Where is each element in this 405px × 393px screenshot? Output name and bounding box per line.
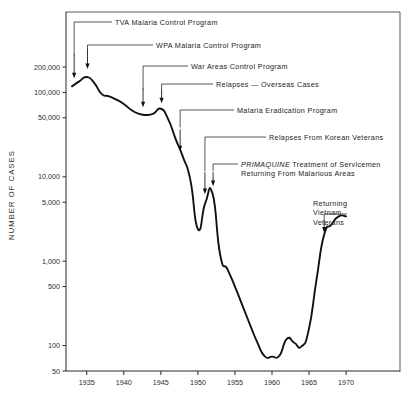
y-tick-label-100: 100 (48, 341, 60, 350)
arrow-head (85, 63, 89, 69)
y-tick-label-500: 500 (48, 282, 60, 291)
annotation-leader (74, 22, 112, 55)
malaria-cases-figure: 200,000100,00050,00010,0005,0001,0005001… (0, 0, 405, 393)
arrow-head (141, 102, 145, 108)
annotation-leader (213, 164, 238, 171)
y-tick-label-50000: 50,000 (38, 113, 60, 122)
y-tick-label-200000: 200,000 (34, 63, 60, 72)
annotation-vietnam-line1: Returning (313, 199, 347, 208)
annotation-leader (87, 45, 153, 50)
y-tick-label-1000: 1,000 (42, 257, 60, 266)
x-tick-label-1940: 1940 (116, 378, 132, 387)
y-tick-label-50: 50 (52, 367, 60, 376)
malaria-cases-curve (72, 77, 346, 358)
arrow-head (211, 181, 215, 187)
annotation-war-areas-label: War Areas Control Program (191, 62, 288, 71)
y-axis-title: NUMBER OF CASES (7, 150, 16, 240)
y-tick-label-100000: 100,000 (34, 88, 60, 97)
annotation-wpa-label: WPA Malaria Control Program (156, 41, 261, 50)
annotation-vietnam-line2: Vietnam (313, 208, 342, 217)
annotation-primaquine-label: PRIMAQUINE Treatment of Servicemen (241, 160, 381, 169)
x-tick-label-1955: 1955 (227, 378, 243, 387)
annotation-leader (180, 110, 234, 127)
x-tick-label-1945: 1945 (153, 378, 169, 387)
annotation-tva-label: TVA Malaria Control Program (115, 18, 218, 27)
x-tick-label-1950: 1950 (190, 378, 206, 387)
x-tick-label-1965: 1965 (301, 378, 317, 387)
x-tick-label-1970: 1970 (338, 378, 354, 387)
annotation-primaquine-label-line2: Returning From Malarious Areas (241, 169, 355, 178)
chart-canvas: 200,000100,00050,00010,0005,0001,0005001… (0, 0, 405, 393)
arrow-head (72, 73, 76, 79)
annotation-relapses-overseas-label: Relapses — Overseas Cases (216, 80, 319, 89)
arrow-head (159, 98, 163, 104)
y-tick-label-10000: 10,000 (38, 172, 60, 181)
annotation-leader (162, 84, 213, 91)
arrow-head (178, 146, 182, 152)
y-tick-label-5000: 5,000 (42, 198, 60, 207)
x-tick-label-1935: 1935 (79, 378, 95, 387)
x-tick-label-1960: 1960 (264, 378, 280, 387)
annotation-korean-label: Relapses From Korean Veterans (269, 133, 383, 142)
arrow-head (203, 189, 207, 195)
annotation-eradication-label: Malaria Eradication Program (237, 106, 338, 115)
annotation-leader (143, 66, 188, 89)
annotation-vietnam-line3: Veterans (313, 218, 344, 227)
